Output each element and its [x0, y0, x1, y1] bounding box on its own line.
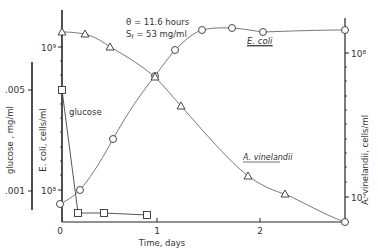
- annotation: θ = 11.6 hours Sf = 53 mg/ml: [126, 17, 190, 40]
- glucose-label: glucose: [69, 107, 102, 117]
- glucose-axis-label: glucose , mg/ml: [5, 106, 15, 174]
- x-tick-1: 1: [154, 226, 160, 236]
- chart: .005 .001 glucose , mg/ml 10⁹ 10⁸ E. col…: [0, 0, 378, 250]
- glucose-tick-005: .005: [5, 85, 25, 95]
- avinelandii-label: A. vinelandii: [242, 153, 293, 162]
- annotation-theta: θ = 11.6 hours: [126, 17, 190, 27]
- avinelandii-tick-1e8: 10⁸: [351, 49, 366, 59]
- series-avinelandii: A. vinelandii: [58, 28, 349, 226]
- ecoli-tick-1e8: 10⁸: [41, 186, 56, 196]
- series-glucose: glucose: [59, 87, 151, 219]
- avinelandii-axis: 10⁸ 10⁷ A. vinelandii, cells/ml: [345, 18, 370, 222]
- ecoli-tick-1e9: 10⁹: [41, 43, 56, 53]
- x-axis: 0 1 2 Time, days: [57, 218, 345, 248]
- glucose-tick-001: .001: [5, 186, 25, 196]
- x-tick-0: 0: [57, 226, 63, 236]
- x-axis-label: Time, days: [138, 238, 186, 248]
- glucose-axis: .005 .001 glucose , mg/ml: [5, 62, 32, 210]
- avinelandii-axis-label: A. vinelandii, cells/ml: [360, 115, 370, 205]
- ecoli-axis-label: E. coli, cells/ml: [38, 108, 48, 171]
- ecoli-axis: 10⁹ 10⁸ E. coli, cells/ml: [38, 10, 62, 222]
- ecoli-label: E. coli: [247, 36, 273, 46]
- x-tick-2: 2: [257, 226, 263, 236]
- annotation-sf: Sf = 53 mg/ml: [126, 29, 187, 40]
